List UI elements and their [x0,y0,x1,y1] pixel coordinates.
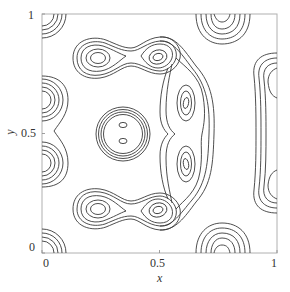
central-ring-contours [96,107,150,161]
bottom-edge-contours [196,223,250,253]
bottom-lobe-contours [73,189,180,230]
y-axis-label: y [4,129,16,134]
contour-lines [18,0,277,277]
right-arc-contours [160,37,214,230]
top-edge-contours [196,14,250,44]
x-tick-0: 0 [43,257,49,269]
y-tick-0: 0 [29,241,35,253]
y-tick-0.5: 0.5 [21,127,36,139]
x-tick-0.5: 0.5 [150,257,165,269]
right-edge-contours [254,53,277,213]
contour-plot [0,0,290,292]
x-axis-label: x [157,272,162,284]
y-tick-1: 1 [28,9,34,21]
top-lobe-contours [73,37,180,78]
x-tick-1: 1 [271,257,277,269]
